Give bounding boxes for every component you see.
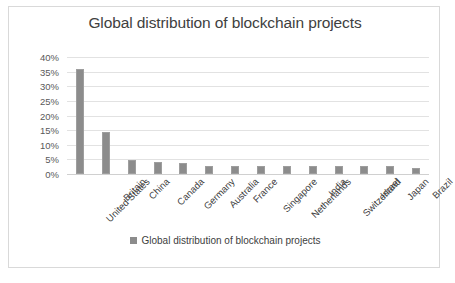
bar: [335, 166, 343, 174]
bar: [309, 166, 317, 174]
bar: [257, 166, 265, 174]
y-axis-tick-label: 35%: [40, 66, 59, 77]
bar: [128, 160, 136, 174]
y-axis-tick-label: 15%: [40, 125, 59, 136]
x-axis-category-label: China: [146, 176, 171, 201]
gridline: [67, 174, 429, 175]
bar: [412, 168, 420, 174]
y-axis-tick-label: 10%: [40, 139, 59, 150]
y-axis-tick-label: 0%: [45, 169, 59, 180]
chart-card: Global distribution of blockchain projec…: [8, 6, 440, 268]
x-axis-category-label: Brazil: [430, 176, 455, 201]
bar: [76, 69, 84, 174]
x-axis-category-label: Japan: [405, 176, 431, 202]
y-axis-tick-label: 20%: [40, 110, 59, 121]
chart-title: Global distribution of blockchain projec…: [9, 14, 441, 32]
plot-area: [67, 57, 429, 174]
y-axis-tick-label: 25%: [40, 95, 59, 106]
x-axis-category-label: Israel: [378, 176, 402, 200]
bar: [231, 166, 239, 174]
y-axis-tick-label: 30%: [40, 81, 59, 92]
bar: [179, 163, 187, 174]
bar: [205, 166, 213, 174]
bar: [360, 166, 368, 174]
bar: [154, 162, 162, 174]
bar-series: [67, 57, 429, 174]
bar: [102, 132, 110, 174]
y-axis-tick-labels: 40%35%30%25%20%15%10%5%0%: [17, 57, 63, 174]
bar: [283, 166, 291, 174]
x-axis-category-labels: United StatesBritainChinaCanadaGermanyAu…: [67, 176, 429, 234]
legend-color-swatch: [130, 237, 137, 244]
bar: [386, 166, 394, 174]
legend-label: Global distribution of blockchain projec…: [142, 235, 321, 246]
chart-legend: Global distribution of blockchain projec…: [9, 235, 441, 246]
y-axis-tick-label: 5%: [45, 154, 59, 165]
y-axis-tick-label: 40%: [40, 52, 59, 63]
